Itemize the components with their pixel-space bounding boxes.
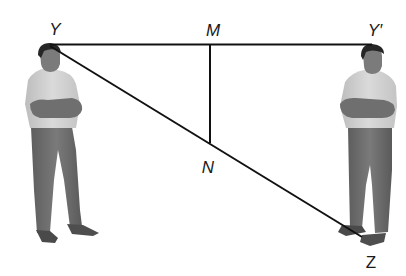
similar-triangles-diagram: Y M Y′ N Z bbox=[0, 0, 406, 276]
left-man-shoe-icon bbox=[67, 224, 99, 236]
left-man-figure bbox=[25, 43, 99, 243]
label-Y: Y bbox=[49, 21, 60, 38]
diagram-svg bbox=[0, 0, 406, 276]
label-M: M bbox=[206, 22, 220, 39]
right-man-figure bbox=[338, 44, 397, 246]
label-N: N bbox=[202, 159, 214, 176]
segment-YZ bbox=[50, 46, 362, 237]
right-man-pants-icon bbox=[348, 127, 392, 233]
right-man-arms-icon bbox=[340, 98, 395, 118]
label-Z: Z bbox=[366, 254, 376, 271]
left-man-arms-icon bbox=[30, 98, 82, 118]
right-man-shoe-icon bbox=[360, 233, 386, 246]
label-Yprime: Y′ bbox=[368, 22, 383, 39]
left-man-shoe-icon bbox=[36, 230, 58, 243]
left-man-shirt-icon bbox=[25, 68, 80, 128]
left-man-pants-icon bbox=[31, 127, 82, 233]
